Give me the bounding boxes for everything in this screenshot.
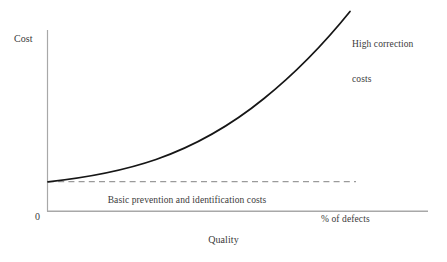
cost-curve: [48, 12, 350, 182]
chart-canvas: Cost 0 % of defects Quality Basic preven…: [0, 0, 447, 262]
curve-annotation-line-2: costs: [352, 74, 413, 86]
y-axis-title: Cost: [14, 33, 33, 44]
origin-label: 0: [35, 211, 40, 222]
curve-annotation-line-1: High correction: [352, 39, 413, 51]
x-axis-title: Quality: [0, 234, 447, 245]
baseline-annotation-label: Basic prevention and identification cost…: [0, 195, 374, 206]
curve-annotation-label: High correction costs: [352, 16, 413, 108]
x-axis-end-label: % of defects: [321, 214, 370, 225]
